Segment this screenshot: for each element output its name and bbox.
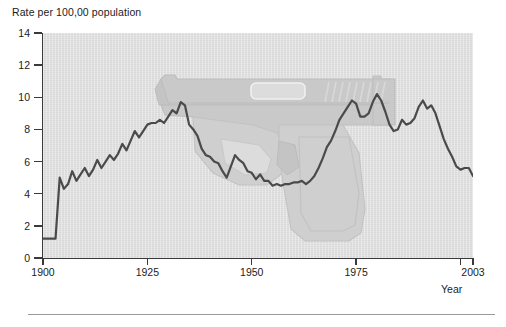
plot-area: [43, 33, 473, 258]
homicide-rate-line: [43, 33, 473, 258]
x-tick-mark: [472, 258, 473, 265]
y-tick-mark: [34, 32, 42, 33]
y-tick-label: 12: [8, 59, 30, 71]
y-tick-mark: [34, 193, 42, 194]
y-axis-line: [42, 33, 43, 259]
x-axis-title: Year: [441, 283, 462, 295]
x-tick-label: 2003: [448, 266, 498, 278]
x-tick-mark: [355, 258, 356, 265]
y-tick-label: 4: [8, 188, 30, 200]
x-tick-label: 1975: [331, 266, 381, 278]
y-tick-label: 8: [8, 123, 30, 135]
y-tick-mark: [34, 161, 42, 162]
x-tick-label: 1950: [227, 266, 277, 278]
x-tick-label: 1900: [18, 266, 68, 278]
x-axis-line: [42, 258, 474, 259]
x-tick-mark: [251, 258, 252, 265]
x-tick-mark: [147, 258, 148, 265]
y-tick-label: 2: [8, 220, 30, 232]
y-axis-title: Rate per 100,00 population: [12, 6, 141, 18]
y-tick-mark: [34, 257, 42, 258]
y-tick-mark: [34, 97, 42, 98]
y-tick-label: 10: [8, 91, 30, 103]
footer-divider: [28, 314, 495, 315]
chart-figure: Rate per 100,00 population: [0, 0, 506, 327]
x-tick-mark: [460, 258, 461, 265]
y-tick-mark: [34, 64, 42, 65]
y-tick-label: 14: [8, 27, 30, 39]
y-tick-mark: [34, 129, 42, 130]
y-tick-label: 6: [8, 156, 30, 168]
y-tick-label: 0: [8, 252, 30, 264]
y-tick-mark: [34, 225, 42, 226]
x-tick-mark: [42, 258, 43, 265]
x-tick-label: 1925: [122, 266, 172, 278]
